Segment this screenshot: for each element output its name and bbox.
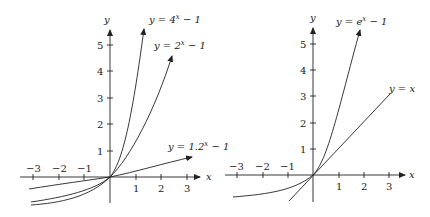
left-tick-x-m1: −1	[77, 163, 92, 174]
left-tick-y-4: 4	[97, 66, 103, 77]
right-tick-y-5: 5	[300, 39, 306, 50]
label-12x: y = 1.2x − 1	[167, 140, 229, 152]
left-graph: −3 −2 −1 1 2 3 1 2 3 4 5 x y y = 4x − 1 …	[20, 13, 229, 205]
left-tick-y-1: 1	[97, 146, 103, 157]
right-tick-x-m1: −1	[280, 161, 295, 172]
left-tick-y-2: 2	[97, 119, 103, 130]
right-y-label: y	[309, 12, 316, 23]
label-2x: y = 2x − 1	[153, 39, 206, 51]
curve-ex	[233, 30, 360, 197]
right-tick-y-2: 2	[300, 118, 306, 129]
label-yx: y = x	[388, 83, 415, 94]
left-tick-x-2: 2	[158, 183, 164, 194]
label-ex: y = ex − 1	[335, 15, 387, 27]
right-tick-x-1: 1	[336, 181, 342, 192]
right-tick-x-m2: −2	[255, 161, 270, 172]
left-x-label: x	[206, 171, 212, 182]
right-tick-x-m3: −3	[229, 161, 244, 172]
left-tick-x-1: 1	[133, 183, 139, 194]
left-tick-y-3: 3	[97, 93, 103, 104]
right-tick-x-3: 3	[386, 181, 392, 192]
right-graph: −3 −2 −1 1 2 3 1 2 3 4 5 x y y = ex − 1 …	[225, 12, 415, 202]
right-tick-y-1: 1	[300, 144, 306, 155]
right-x-label: x	[409, 169, 415, 180]
right-tick-x-2: 2	[361, 181, 367, 192]
right-tick-y-3: 3	[300, 91, 306, 102]
right-tick-y-4: 4	[300, 65, 306, 76]
left-tick-y-5: 5	[97, 40, 103, 51]
curve-4x	[31, 29, 144, 205]
graphs-canvas: −3 −2 −1 1 2 3 1 2 3 4 5 x y y = 4x − 1 …	[0, 0, 430, 217]
left-y-label: y	[103, 14, 110, 25]
label-4x: y = 4x − 1	[148, 13, 201, 25]
left-tick-x-3: 3	[184, 183, 190, 194]
left-tick-x-m3: −3	[26, 163, 41, 174]
left-tick-x-m2: −2	[52, 163, 67, 174]
